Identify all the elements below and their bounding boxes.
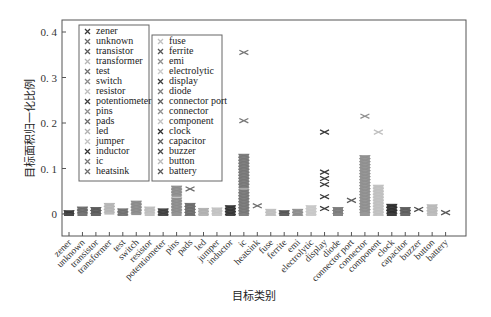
strip-chart: 00. 10. 20. 30. 4 zenerunknowntransistor… bbox=[0, 0, 491, 317]
data-band bbox=[90, 207, 101, 216]
data-band bbox=[158, 208, 169, 216]
x-axis: zenerunknowntransistortransformertestswi… bbox=[52, 232, 450, 283]
data-marker bbox=[441, 210, 450, 214]
legend-box-2: fuseferriteemielectrolyticdisplaydiodeco… bbox=[152, 35, 227, 181]
data-band bbox=[171, 197, 182, 216]
data-band bbox=[279, 210, 290, 216]
data-band bbox=[131, 201, 142, 215]
data-band bbox=[64, 210, 75, 216]
data-marker bbox=[320, 170, 329, 174]
data-band bbox=[117, 208, 128, 216]
x-tick-label: pads bbox=[175, 237, 195, 257]
legend-label: heatsink bbox=[96, 165, 129, 176]
data-band bbox=[225, 205, 236, 216]
data-marker bbox=[320, 195, 329, 199]
data-marker bbox=[239, 50, 248, 54]
data-band bbox=[265, 209, 276, 216]
legend-label: battery bbox=[169, 165, 197, 176]
data-marker bbox=[320, 206, 329, 210]
y-tick-label: 0. 4 bbox=[41, 26, 58, 38]
data-band bbox=[185, 203, 196, 216]
data-marker bbox=[186, 187, 195, 191]
data-band bbox=[77, 207, 88, 216]
data-band bbox=[144, 207, 155, 216]
y-tick-label: 0. 2 bbox=[41, 117, 58, 129]
y-tick-label: 0. 1 bbox=[41, 163, 58, 175]
data-band bbox=[400, 207, 411, 216]
y-axis-title: 目标面积归一化比例 bbox=[23, 79, 37, 178]
data-band bbox=[292, 209, 303, 216]
data-marker bbox=[320, 130, 329, 134]
x-axis-title: 目标类别 bbox=[232, 289, 276, 303]
data-marker bbox=[347, 198, 356, 202]
data-band bbox=[171, 186, 182, 197]
y-tick-label: 0 bbox=[52, 208, 58, 220]
data-marker bbox=[374, 130, 383, 134]
data-band bbox=[238, 189, 249, 216]
data-marker bbox=[320, 176, 329, 180]
data-marker bbox=[253, 204, 262, 208]
data-band bbox=[373, 185, 384, 216]
data-marker bbox=[239, 119, 248, 123]
data-band bbox=[427, 204, 438, 216]
data-band bbox=[359, 155, 370, 216]
y-tick-label: 0. 3 bbox=[41, 72, 58, 84]
data-band bbox=[333, 207, 344, 216]
data-band bbox=[238, 154, 249, 189]
data-band bbox=[104, 203, 115, 215]
data-marker bbox=[414, 207, 423, 211]
data-band bbox=[198, 208, 209, 216]
data-marker bbox=[360, 114, 369, 118]
data-marker bbox=[320, 182, 329, 186]
data-band bbox=[386, 204, 397, 216]
legend-box-1: zenerunknowntransistortransformertestswi… bbox=[79, 25, 152, 181]
data-band bbox=[211, 207, 222, 216]
data-band bbox=[306, 205, 317, 216]
